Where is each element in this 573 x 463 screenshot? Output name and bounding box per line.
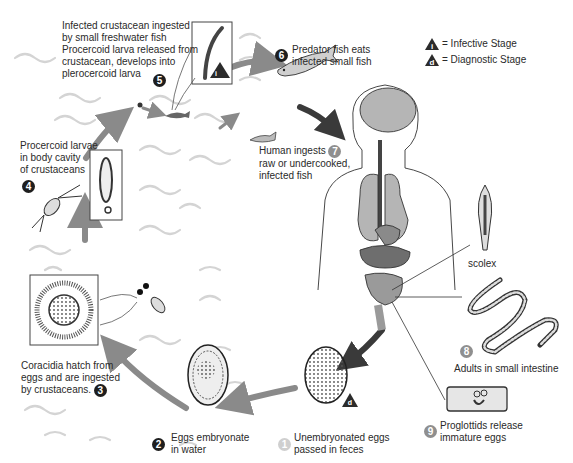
stage-6-line: Predator fish eats xyxy=(292,44,371,56)
legend: i = Infective Stage d = Diagnostic Stage xyxy=(424,36,526,68)
stage-5-line: Procercoid larva released from xyxy=(62,44,198,56)
svg-text:d: d xyxy=(430,58,435,67)
stage-2-line: in water xyxy=(171,444,249,456)
legend-diagnostic-label: = Diagnostic Stage xyxy=(442,52,526,68)
stage-2-label: Eggs embryonate in water xyxy=(171,432,249,456)
stage-5-label: Infected crustacean ingested by small fr… xyxy=(62,20,198,80)
stage-4-badge: 4 xyxy=(22,180,35,193)
stage-3-line: by crustaceans. xyxy=(21,384,91,395)
stage-7-line: infected fish xyxy=(259,170,350,182)
stage-3-line: eggs and are ingested xyxy=(21,372,120,384)
legend-infective-label: = Infective Stage xyxy=(442,36,517,52)
proglottid xyxy=(447,387,507,411)
stage-3-line: Coracidia hatch from xyxy=(21,360,120,372)
stage-1-line: Unembryonated eggs xyxy=(294,432,390,444)
stage-9-badge: 9 xyxy=(424,425,437,438)
stage-9-line: immature eggs xyxy=(440,432,523,444)
legend-infective: i = Infective Stage xyxy=(424,36,526,52)
stage-5-line: plerocercoid larva xyxy=(62,68,198,80)
stage-5-line: Infected crustacean ingested xyxy=(62,20,198,32)
stage-8-badge: 8 xyxy=(460,345,473,358)
stage-4-label: Procercoid larvae in body cavity of crus… xyxy=(20,140,98,176)
stage-9-line: Proglottids release xyxy=(440,420,523,432)
stage-1-line: passed in feces xyxy=(294,444,390,456)
copepod-crustacean xyxy=(32,185,82,232)
cycle-arrows xyxy=(85,61,295,408)
adult-tapeworm xyxy=(470,280,556,352)
stage-4-line: of crustaceans xyxy=(20,164,98,176)
stage-7-line: raw or undercooked, xyxy=(259,158,350,170)
embryonated-egg xyxy=(188,345,228,405)
stage-6-line: infected small fish xyxy=(292,56,371,68)
stage-4-line: in body cavity xyxy=(20,152,98,164)
stage-1-label: Unembryonated eggs passed in feces xyxy=(294,432,390,456)
stage-1-badge: 1 xyxy=(278,438,291,451)
stage-7-badge: 7 xyxy=(328,145,341,158)
legend-diagnostic: d = Diagnostic Stage xyxy=(424,52,526,68)
infective-stage-icon: i xyxy=(424,37,440,51)
stage-5-line: by small freshwater fish xyxy=(62,32,198,44)
stage-8-line: Adults in small intestine xyxy=(454,363,559,375)
svg-text:d: d xyxy=(348,399,352,406)
stage-9-label: Proglottids release immature eggs xyxy=(440,420,523,444)
stage-6-label: Predator fish eats infected small fish xyxy=(292,44,371,68)
pointer-lines xyxy=(392,245,470,400)
stage-2-line: Eggs embryonate xyxy=(171,432,249,444)
stage-4-line: Procercoid larvae xyxy=(20,140,98,152)
human-figure xyxy=(318,85,455,330)
unembryonated-egg: d xyxy=(305,347,358,407)
scolex-label: scolex xyxy=(468,258,496,270)
scolex-illustration xyxy=(478,185,491,250)
stage-6-badge: 6 xyxy=(275,49,288,62)
coracidium-box xyxy=(30,275,168,345)
stage-3-badge: 3 xyxy=(94,384,107,397)
stage-5-badge: 5 xyxy=(153,74,166,87)
life-cycle-diagram: i xyxy=(0,0,573,463)
stage-2-badge: 2 xyxy=(152,438,165,451)
svg-text:i: i xyxy=(431,42,433,51)
diagnostic-stage-icon: d xyxy=(424,53,440,67)
stage-7-line: Human ingests xyxy=(259,145,326,156)
svg-text:i: i xyxy=(215,70,217,77)
stage-8-label: Adults in small intestine xyxy=(454,363,559,375)
stage-7-label: Human ingests 7 raw or undercooked, infe… xyxy=(259,145,350,182)
stage-3-label: Coracidia hatch from eggs and are ingest… xyxy=(21,360,120,397)
stage-5-line: crustacean, develops into xyxy=(62,56,198,68)
